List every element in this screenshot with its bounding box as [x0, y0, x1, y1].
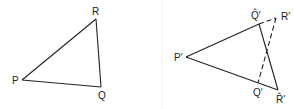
edge-Qhat-Rhat: [259, 24, 278, 90]
label-Q-hat-prime: Q̂′: [251, 8, 261, 21]
label-Q: Q: [98, 90, 106, 101]
label-R-hat-prime: R̂′: [276, 92, 285, 105]
label-P-prime: P′: [174, 52, 183, 63]
label-R: R: [92, 6, 99, 17]
label-P: P: [12, 75, 19, 86]
edge-PR: [22, 19, 96, 80]
label-R-prime: R′: [281, 11, 290, 22]
dashed-Qhat-R1: [259, 18, 276, 24]
label-Q-prime: Q′: [253, 87, 263, 98]
edge-RQ: [96, 19, 101, 87]
left-triangle: P R Q: [12, 6, 106, 101]
edge-QP: [22, 80, 101, 87]
edge-P1-Qhat: [186, 24, 259, 57]
right-triangle: P′ Q̂′ R′ Q′ R̂′: [174, 8, 290, 105]
edge-P1-Rhat: [186, 57, 278, 90]
triangle-figure: P R Q P′ Q̂′ R′ Q′ R̂′: [0, 0, 294, 109]
